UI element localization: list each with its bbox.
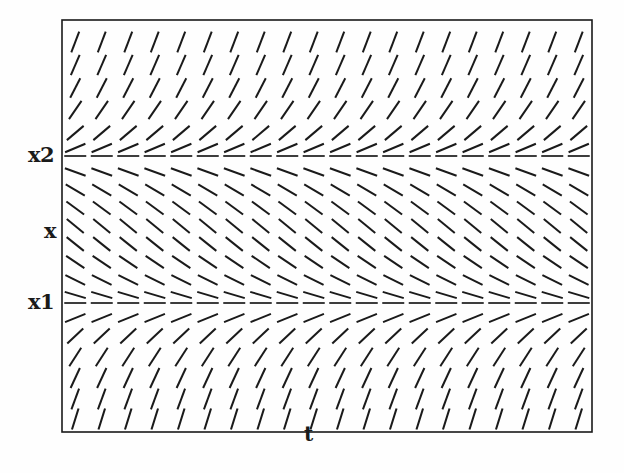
- y-tick-label-x2: x2: [28, 144, 54, 165]
- slope-field-figure: x2 x x1 t: [0, 0, 624, 473]
- x-axis-label: t: [304, 424, 313, 444]
- y-axis-label: x: [44, 220, 56, 241]
- slope-field-canvas: [0, 0, 624, 473]
- y-tick-label-x1: x1: [28, 291, 54, 312]
